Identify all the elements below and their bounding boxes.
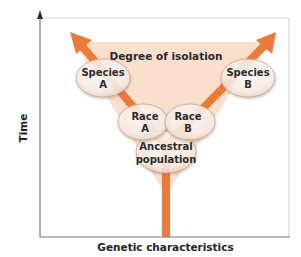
x-axis-label: Genetic characteristics	[0, 241, 301, 253]
node-species-b	[221, 59, 275, 97]
degree-of-isolation-label: Degree of isolation	[110, 50, 223, 62]
y-axis-arrowhead-icon	[37, 10, 43, 19]
node-race-a	[118, 104, 168, 140]
node-ancestral-line2: population	[136, 154, 197, 165]
speciation-diagram: Degree of isolation Ancestral population…	[0, 0, 301, 257]
node-species-b-line2: B	[244, 79, 252, 90]
node-race-b-line2: B	[184, 123, 192, 134]
node-ancestral-line1: Ancestral	[139, 141, 192, 152]
node-race-a-line1: Race	[131, 111, 158, 122]
node-race-a-line2: A	[141, 123, 149, 134]
node-race-b-line1: Race	[174, 111, 201, 122]
node-species-b-line1: Species	[226, 67, 269, 78]
node-species-a	[76, 59, 130, 97]
y-axis-label: Time	[17, 113, 29, 143]
node-race-b	[165, 104, 215, 140]
node-species-a-line1: Species	[81, 67, 124, 78]
node-species-a-line2: A	[99, 79, 107, 90]
